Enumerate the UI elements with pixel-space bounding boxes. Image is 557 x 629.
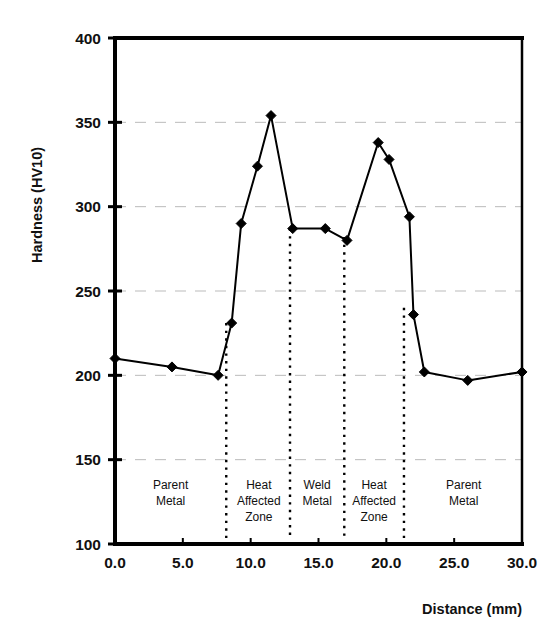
zone-label-4-line-1: Heat bbox=[361, 478, 387, 492]
zone-label-3-line-1: Weld bbox=[304, 478, 331, 492]
zone-label-2-line-1: Heat bbox=[246, 478, 272, 492]
x-tick-label-0: 0.0 bbox=[104, 554, 126, 571]
zone-label-2-line-3: Zone bbox=[245, 510, 273, 524]
zone-label-4-line-2: Affected bbox=[352, 494, 396, 508]
y-tick-label-200: 200 bbox=[75, 367, 101, 384]
zone-label-3-line-2: Metal bbox=[302, 494, 331, 508]
y-tick-label-400: 400 bbox=[75, 30, 101, 47]
y-tick-label-250: 250 bbox=[75, 283, 101, 300]
zone-label-4-line-3: Zone bbox=[360, 510, 388, 524]
chart-canvas: ParentMetalHeatAffectedZoneWeldMetalHeat… bbox=[0, 0, 557, 629]
x-tick-label-5: 5.0 bbox=[172, 554, 194, 571]
zone-label-2-line-2: Affected bbox=[237, 494, 281, 508]
zone-label-1-line-2: Metal bbox=[156, 494, 185, 508]
y-axis-title: Hardness (HV10) bbox=[29, 147, 45, 263]
x-tick-label-10: 10.0 bbox=[236, 554, 266, 571]
x-tick-label-30: 30.0 bbox=[507, 554, 537, 571]
x-tick-label-20: 20.0 bbox=[371, 554, 401, 571]
hardness-traverse-chart: ParentMetalHeatAffectedZoneWeldMetalHeat… bbox=[0, 0, 557, 629]
x-tick-label-25: 25.0 bbox=[439, 554, 469, 571]
y-tick-label-100: 100 bbox=[75, 536, 101, 553]
zone-label-5-line-2: Metal bbox=[449, 494, 478, 508]
y-tick-label-350: 350 bbox=[75, 114, 101, 131]
y-tick-label-300: 300 bbox=[75, 198, 101, 215]
zone-label-1-line-1: Parent bbox=[153, 478, 189, 492]
zone-label-5-line-1: Parent bbox=[446, 478, 482, 492]
x-axis-title: Distance (mm) bbox=[422, 601, 522, 617]
y-tick-label-150: 150 bbox=[75, 451, 101, 468]
x-tick-label-15: 15.0 bbox=[303, 554, 333, 571]
